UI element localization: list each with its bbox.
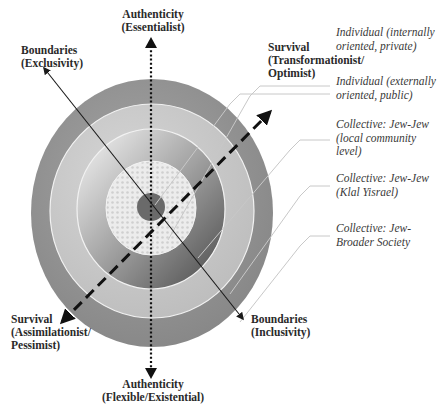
layer-label-individual-public: Individual (externally oriented, public) [336,75,436,102]
layer-label-line: Individual (externally [336,75,436,89]
axis-label-authenticity-flexible: Authenticity (Flexible/Existential) [96,378,210,404]
layer-label-klal-yisrael: Collective: Jew-Jew (Klal Yisrael) [336,172,429,199]
axis-label-line: Pessimist) [11,339,91,352]
axis-label-line: (Exclusivity) [21,57,83,70]
axis-label-boundaries-inclusivity: Boundaries (Inclusivity) [251,313,310,339]
axis-label-boundaries-exclusivity: Boundaries (Exclusivity) [21,44,83,70]
layer-label-line: oriented, private) [336,40,435,54]
layer-label-line: Collective: Jew- [336,222,411,236]
authenticity-up-arrow-icon [145,37,157,48]
axis-label-line: (Flexible/Existential) [96,391,210,404]
axis-label-line: (Essentialist) [118,21,188,34]
axis-label-authenticity-essentialist: Authenticity (Essentialist) [118,8,188,34]
axis-label-survival-assimilationist: Survival (Assimilationist/ Pessimist) [11,313,91,352]
axis-label-line: (Inclusivity) [251,326,310,339]
axis-label-line: Authenticity [96,378,210,391]
axis-label-line: (Assimilationist/ [11,326,91,339]
layer-label-line: Individual (internally [336,26,435,40]
layer-label-broader-society: Collective: Jew- Broader Society [336,222,411,249]
axis-label-line: (Transformationist/ [268,54,364,67]
layer-label-individual-private: Individual (internally oriented, private… [336,26,435,53]
axis-label-line: Boundaries [21,44,83,57]
layer-label-line: Broader Society [336,236,411,250]
layer-label-line: (local community [336,132,429,146]
axis-label-line: Authenticity [118,8,188,21]
axis-label-line: Boundaries [251,313,310,326]
layer-label-line: oriented, public) [336,89,436,103]
layer-label-line: (Klal Yisrael) [336,186,429,200]
layer-label-line: level) [336,145,429,159]
layer-label-line: Collective: Jew-Jew [336,118,429,132]
layer-label-line: Collective: Jew-Jew [336,172,429,186]
axis-label-line: Survival [11,313,91,326]
layer-label-local-community: Collective: Jew-Jew (local community lev… [336,118,429,159]
